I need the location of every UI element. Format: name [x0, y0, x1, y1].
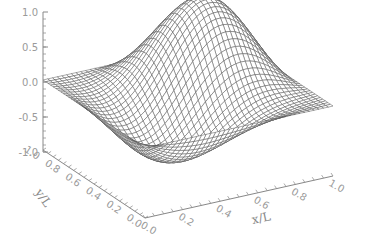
surface-plot: -1.0-0.50.00.51.00.00.20.40.60.81.0x/L0.… — [0, 0, 373, 245]
z-tick-label: 0.5 — [22, 42, 38, 53]
y-tick-label: 0.8 — [43, 157, 62, 175]
surface-mesh — [43, 0, 333, 163]
z-tick-label: 0.0 — [22, 77, 38, 88]
x-tick-label: 0.4 — [214, 202, 233, 219]
z-tick-label: 1.0 — [22, 7, 38, 18]
x-tick-label: 0.8 — [290, 186, 309, 203]
y-axis-title: y/L — [32, 185, 55, 209]
y-tick-label: 0.2 — [104, 198, 123, 216]
y-tick-label: 0.4 — [84, 184, 103, 202]
y-tick-label: 0.6 — [63, 171, 82, 189]
z-tick-label: -0.5 — [18, 112, 38, 123]
x-tick-label: 1.0 — [327, 177, 346, 194]
x-tick-label: 0.2 — [177, 211, 196, 228]
x-axis-title: x/L — [251, 209, 272, 227]
